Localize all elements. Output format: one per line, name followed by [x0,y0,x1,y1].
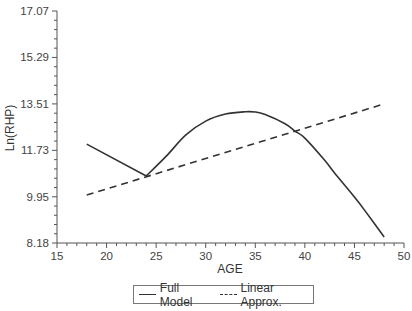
axes [57,11,404,243]
x-tick-label: 40 [298,250,311,262]
dashed-line-swatch-icon [220,294,237,295]
x-tick-label: 15 [51,250,64,262]
legend: Full Model Linear Approx. [133,285,314,304]
x-tick-label: 45 [348,250,361,262]
linear-approx-line [87,104,384,195]
legend-label: Linear Approx. [241,281,313,309]
x-tick-label: 25 [150,250,163,262]
legend-item-linear-approx: Linear Approx. [220,281,313,309]
legend-item-full-model: Full Model [139,281,212,309]
y-tick-label: 13.51 [20,98,49,110]
legend-label: Full Model [160,281,212,309]
y-tick-label: 8.18 [27,237,49,249]
plot-series [87,104,384,237]
y-tick-label: 11.73 [21,144,49,156]
y-tick-label: 17.07 [20,5,49,17]
line-chart: 15202530354045508.189.9511.7313.5115.291… [0,0,412,311]
y-axis-title: Ln(RHP) [3,105,17,152]
y-tick-label: 15.29 [20,51,49,63]
full-model-line [87,112,384,237]
x-tick-label: 30 [199,250,212,262]
x-tick-label: 20 [100,250,113,262]
axis-ticks [52,11,404,248]
y-tick-label: 9.95 [27,191,49,203]
x-tick-label: 35 [249,250,262,262]
solid-line-swatch-icon [139,294,156,295]
x-axis-title: AGE [217,262,242,276]
x-tick-label: 50 [398,250,411,262]
tick-labels: 15202530354045508.189.9511.7313.5115.291… [20,5,410,262]
